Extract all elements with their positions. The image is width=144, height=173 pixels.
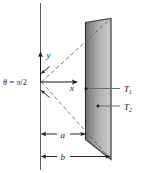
angle-arrow-lower [41,90,49,97]
t2-label: T2 [124,102,132,113]
x-axis-label: x [69,83,74,93]
angle-arrow-upper [41,67,49,74]
t1-subscript: 1 [129,89,132,95]
theta-symbol: θ [3,78,7,87]
physics-diagram: y x θ=π/2 T1 T2 a b [0,0,144,173]
t2-marker-dot [97,105,100,108]
theta-angle-label: θ=π/2 [3,78,27,87]
y-axis-label: y [46,50,51,60]
theta-value: π/2 [16,78,26,87]
t2-subscript: 2 [129,107,132,113]
theta-equals: = [9,78,14,87]
t1-marker-dot [85,87,88,90]
dimension-a-label: a [61,130,66,140]
diagram-canvas: y x θ=π/2 T1 T2 a b [0,0,144,173]
t1-label: T1 [124,84,132,95]
dimension-b-label: b [61,152,66,162]
